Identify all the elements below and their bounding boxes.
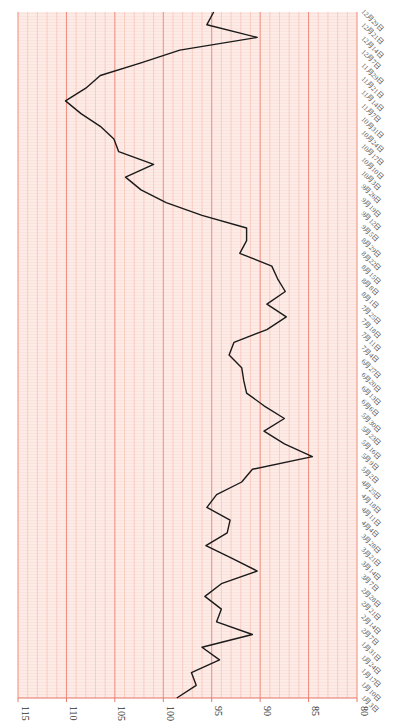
value-tick-label: 105 xyxy=(116,706,127,721)
line-chart: 11511010510095908580 1月3日1月10日1月17日1月24日… xyxy=(0,0,405,728)
plot-area xyxy=(18,12,357,698)
date-axis-ticks: 1月3日1月10日1月17日1月24日1月31日2月7日2月14日2月21日2月… xyxy=(360,8,385,715)
value-tick-label: 90 xyxy=(262,706,273,716)
value-tick-label: 95 xyxy=(213,706,224,716)
value-tick-label: 115 xyxy=(20,706,31,721)
value-tick-label: 85 xyxy=(310,706,321,716)
value-tick-label: 100 xyxy=(165,706,176,721)
value-axis-ticks: 11511010510095908580 xyxy=(18,698,370,721)
value-tick-label: 110 xyxy=(68,706,79,721)
